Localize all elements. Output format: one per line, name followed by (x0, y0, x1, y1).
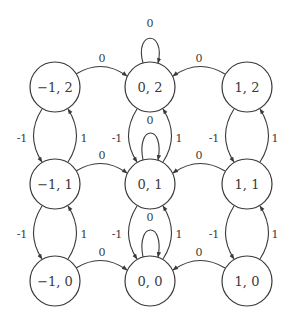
edge-label-1-0-to-0-0: 0 (196, 246, 203, 259)
edge-m1-0-to-m1-1 (68, 206, 77, 259)
edge-m1-2-to-m1-1 (34, 109, 43, 162)
node-label-m1-1: −1, 1 (37, 177, 73, 192)
edge-0-1-to-0-2 (163, 109, 172, 162)
edge-label-0-0-to-0-1: 1 (176, 228, 183, 241)
state-diagram: 0 0 0 0 0 0 0 0 0 -1 1 -1 1 -1 1 -1 1 -1… (0, 0, 295, 326)
node-label-0-0: 0, 0 (138, 274, 163, 289)
edge-m1-1-to-m1-2 (68, 109, 77, 162)
edge-1-0-to-1-1 (260, 206, 269, 259)
node-1-0: 1, 0 (222, 256, 272, 306)
edge-0-1-to-0-0 (129, 206, 138, 259)
node-label-m1-0: −1, 0 (37, 274, 73, 289)
edge-label-m1-2-to-m1-1: -1 (17, 132, 28, 145)
edge-loop-0-1 (142, 133, 159, 160)
edge-label-m1-0-to-0-0: 0 (99, 246, 106, 259)
edge-1-2-to-1-1 (226, 109, 235, 162)
edge-label-m1-1-to-0-1: 0 (99, 149, 106, 162)
edge-loop-0-2 (141, 38, 159, 63)
edge-label-m1-1-to-m1-0: -1 (17, 228, 28, 241)
edge-m1-1-to-m1-0 (34, 206, 43, 259)
edge-label-1-0-to-1-1: 1 (272, 228, 279, 241)
edge-1-1-to-1-0 (226, 206, 235, 259)
edge-label-1-1-to-1-2: 1 (272, 132, 279, 145)
edge-label-m1-2-to-0-2: 0 (99, 52, 106, 65)
node-m1-0: −1, 0 (30, 256, 80, 306)
node-0-1: 0, 1 (125, 159, 175, 209)
edge-0-2-to-0-1 (129, 109, 138, 162)
node-label-1-2: 1, 2 (235, 80, 260, 95)
edge-label-0-1-to-0-2: 1 (176, 132, 183, 145)
edge-1-1-to-0-1 (173, 163, 225, 173)
edge-1-2-to-0-2 (173, 66, 225, 76)
node-label-1-0: 1, 0 (235, 274, 260, 289)
edge-m1-0-to-0-0 (76, 260, 127, 270)
node-label-m1-2: −1, 2 (37, 80, 73, 95)
edge-1-1-to-1-2 (260, 109, 269, 162)
node-m1-2: −1, 2 (30, 62, 80, 112)
node-m1-1: −1, 1 (30, 159, 80, 209)
edge-label-m1-0-to-m1-1: 1 (81, 228, 88, 241)
edge-label-m1-1-to-m1-2: 1 (81, 132, 88, 145)
edge-label-loop-0-1: 0 (147, 114, 154, 127)
edge-loop-0-0 (142, 230, 159, 257)
edge-label-loop-0-2: 0 (147, 17, 154, 30)
node-label-1-1: 1, 1 (235, 177, 260, 192)
edge-0-0-to-0-1 (163, 206, 172, 259)
edge-1-0-to-0-0 (173, 260, 225, 270)
node-1-2: 1, 2 (222, 62, 272, 112)
node-label-0-2: 0, 2 (138, 80, 163, 95)
edge-label-0-2-to-0-1: -1 (112, 132, 123, 145)
node-0-0: 0, 0 (125, 256, 175, 306)
edge-label-1-1-to-0-1: 0 (196, 149, 203, 162)
node-1-1: 1, 1 (222, 159, 272, 209)
edge-label-1-1-to-1-0: -1 (209, 228, 220, 241)
edge-label-1-2-to-0-2: 0 (196, 52, 203, 65)
node-label-0-1: 0, 1 (138, 177, 163, 192)
edge-label-1-2-to-1-1: -1 (209, 132, 220, 145)
node-0-2: 0, 2 (125, 62, 175, 112)
edge-label-loop-0-0: 0 (147, 211, 154, 224)
edge-label-0-1-to-0-0: -1 (112, 228, 123, 241)
edge-m1-1-to-0-1 (76, 163, 127, 173)
edge-m1-2-to-0-2 (76, 66, 127, 76)
